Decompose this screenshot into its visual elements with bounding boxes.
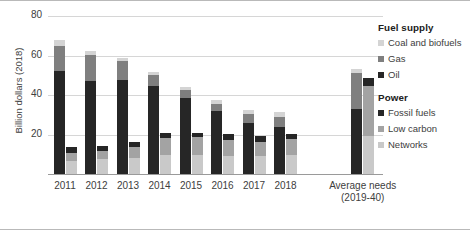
segment-gas <box>274 117 285 127</box>
segment-networks <box>223 156 234 174</box>
bar-fuel-supply-7 <box>274 16 285 174</box>
segment-fossil-fuels <box>255 136 266 142</box>
segment-low-carbon <box>97 151 108 159</box>
plot-area <box>48 16 383 174</box>
bar-fuel-supply-0 <box>54 16 65 174</box>
legend-group-title-fuel-supply: Fuel supply <box>378 22 470 33</box>
legend-swatch-icon-gas <box>378 56 384 62</box>
segment-low-carbon <box>286 139 297 155</box>
segment-oil <box>117 80 128 174</box>
legend-swatch-icon-coal-and-biofuels <box>378 40 384 46</box>
legend-power-item-1[interactable]: Low carbon <box>378 123 470 134</box>
legend-label-networks: Networks <box>388 139 428 150</box>
segment-coal-and-biofuels <box>180 87 191 90</box>
x-tick-label-8: Average needs(2019-40) <box>323 180 403 203</box>
segment-gas <box>148 75 159 86</box>
legend-group-title-power: Power <box>378 92 470 103</box>
segment-fossil-fuels <box>192 133 203 138</box>
segment-networks <box>255 156 266 174</box>
bar-fuel-supply-4 <box>180 16 191 174</box>
segment-coal-and-biofuels <box>117 58 128 62</box>
segment-fossil-fuels <box>129 142 140 147</box>
legend-label-oil: Oil <box>388 69 400 80</box>
segment-oil <box>274 127 285 174</box>
segment-low-carbon <box>129 147 140 158</box>
x-tick-label-average-needs-line2: (2019-40) <box>323 192 403 203</box>
segment-gas <box>117 61 128 80</box>
segment-low-carbon <box>160 138 171 155</box>
segment-networks <box>66 161 77 174</box>
segment-low-carbon <box>66 153 77 161</box>
x-tick-label-average-needs-line1: Average needs <box>323 180 403 191</box>
x-axis-line <box>48 174 383 175</box>
bar-power-3 <box>160 16 171 174</box>
bar-power-4 <box>192 16 203 174</box>
segment-oil <box>54 71 65 174</box>
bar-fuel-supply-2 <box>117 16 128 174</box>
legend-label-fossil-fuels: Fossil fuels <box>388 107 436 118</box>
segment-gas <box>351 73 362 109</box>
segment-coal-and-biofuels <box>211 100 222 104</box>
y-tick-label-60: 60 <box>14 49 42 60</box>
legend-label-coal-and-biofuels: Coal and biofuels <box>388 37 461 48</box>
segment-oil <box>148 86 159 174</box>
legend-fuel-supply-item-0[interactable]: Coal and biofuels <box>378 37 470 48</box>
segment-gas <box>243 114 254 123</box>
bar-fuel-supply-8 <box>351 16 362 174</box>
segment-oil <box>211 111 222 174</box>
segment-oil <box>243 123 254 174</box>
segment-coal-and-biofuels <box>243 110 254 114</box>
bar-fuel-supply-6 <box>243 16 254 174</box>
legend-spacer <box>378 85 470 92</box>
y-tick-label-40: 40 <box>14 88 42 99</box>
segment-gas <box>180 90 191 98</box>
segment-low-carbon <box>223 140 234 156</box>
legend-swatch-icon-fossil-fuels <box>378 110 384 116</box>
segment-networks <box>97 159 108 174</box>
segment-fossil-fuels <box>286 134 297 140</box>
bar-fuel-supply-5 <box>211 16 222 174</box>
segment-fossil-fuels <box>97 146 108 151</box>
segment-fossil-fuels <box>363 78 374 86</box>
legend-power-item-0[interactable]: Fossil fuels <box>378 107 470 118</box>
legend-label-gas: Gas <box>388 53 405 64</box>
bar-fuel-supply-3 <box>148 16 159 174</box>
segment-low-carbon <box>255 142 266 156</box>
chart-legend: Fuel supply Coal and biofuelsGasOil Powe… <box>378 22 470 155</box>
segment-gas <box>54 46 65 72</box>
segment-networks <box>192 155 203 174</box>
x-tick-label-7: 2018 <box>246 180 326 191</box>
bar-fuel-supply-1 <box>85 16 96 174</box>
legend-swatch-icon-low-carbon <box>378 126 384 132</box>
y-tick-label-80: 80 <box>14 9 42 20</box>
y-tick-label-20: 20 <box>14 128 42 139</box>
segment-gas <box>211 104 222 111</box>
legend-items-power: Fossil fuelsLow carbonNetworks <box>378 107 470 150</box>
bar-power-2 <box>129 16 140 174</box>
bar-power-0 <box>66 16 77 174</box>
legend-fuel-supply-item-2[interactable]: Oil <box>378 69 470 80</box>
segment-fossil-fuels <box>66 147 77 153</box>
segment-low-carbon <box>192 137 203 155</box>
legend-swatch-icon-networks <box>378 142 384 148</box>
segment-fossil-fuels <box>160 133 171 139</box>
segment-oil <box>351 109 362 174</box>
segment-coal-and-biofuels <box>85 51 96 55</box>
segment-coal-and-biofuels <box>54 40 65 46</box>
segment-coal-and-biofuels <box>351 69 362 73</box>
legend-label-low-carbon: Low carbon <box>388 123 437 134</box>
segment-networks <box>363 136 374 174</box>
bar-power-6 <box>255 16 266 174</box>
segment-oil <box>85 81 96 174</box>
bar-power-7 <box>286 16 297 174</box>
segment-gas <box>85 55 96 82</box>
segment-coal-and-biofuels <box>274 112 285 117</box>
legend-swatch-icon-oil <box>378 72 384 78</box>
legend-fuel-supply-item-1[interactable]: Gas <box>378 53 470 64</box>
segment-fossil-fuels <box>223 134 234 141</box>
bar-power-1 <box>97 16 108 174</box>
segment-networks <box>160 155 171 174</box>
segment-low-carbon <box>363 86 374 136</box>
legend-power-item-2[interactable]: Networks <box>378 139 470 150</box>
segment-networks <box>129 158 140 174</box>
